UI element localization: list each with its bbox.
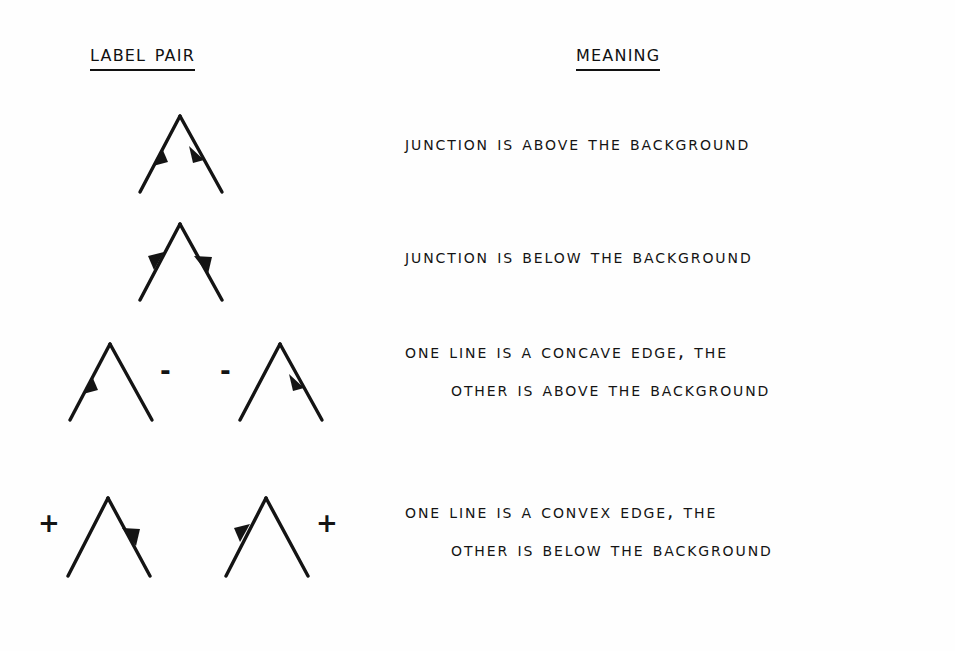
column-header-meaning: Meaning xyxy=(576,40,660,71)
meaning-line-1: Junction is above the background xyxy=(405,131,750,155)
label-pair-figure-row4-right: + xyxy=(208,482,368,586)
right-leg-line xyxy=(266,498,308,576)
meaning-text-row4: One line is a convex edge, the other is … xyxy=(405,492,773,568)
meaning-line-1: One line is a convex edge, the xyxy=(405,499,717,523)
left-leg-line xyxy=(240,344,280,420)
plus-sign-label: + xyxy=(316,508,338,538)
meaning-line-1: Junction is below the background xyxy=(405,244,753,268)
meaning-text-row3: One line is a concave edge, the other is… xyxy=(405,332,770,408)
meaning-text-row2: Junction is below the background xyxy=(405,237,753,275)
right-leg-line xyxy=(180,116,222,192)
left-leg-line xyxy=(140,224,180,300)
meaning-line-2: other is below the background xyxy=(405,530,773,568)
left-leg-line xyxy=(226,498,266,576)
junction-diagram-arrow-left-minus-right: - xyxy=(62,330,212,430)
junction-diagram-arrow-both-outward xyxy=(118,100,248,200)
label-pair-figure-row3-right: - xyxy=(218,330,368,430)
minus-sign-label: - xyxy=(220,356,231,386)
junction-diagram-minus-left-arrow-right: - xyxy=(218,330,368,430)
label-pair-figure-row2 xyxy=(118,208,248,308)
right-leg-line xyxy=(280,344,322,420)
label-pair-figure-row1 xyxy=(118,100,248,200)
meaning-text-row1: Junction is above the background xyxy=(405,124,750,162)
junction-diagram-plus-left-arrow-right: + xyxy=(30,482,190,586)
right-arrowhead-icon xyxy=(194,256,212,274)
plus-sign-label: + xyxy=(38,508,60,538)
column-header-label-pair: Label Pair xyxy=(90,40,195,71)
meaning-line-1: One line is a concave edge, the xyxy=(405,339,728,363)
figure-sheet: Label Pair Meaning xyxy=(0,0,955,651)
label-pair-figure-row4-left: + xyxy=(30,482,190,586)
junction-diagram-arrow-both-inward xyxy=(118,208,248,308)
right-leg-line xyxy=(110,344,152,420)
label-pair-figure-row3-left: - xyxy=(62,330,212,430)
minus-sign-label: - xyxy=(160,356,171,386)
junction-diagram-arrow-left-plus-right: + xyxy=(208,482,368,586)
meaning-line-2: other is above the background xyxy=(405,370,770,408)
left-leg-line xyxy=(68,498,108,576)
